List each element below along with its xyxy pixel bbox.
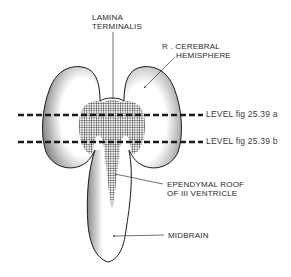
midbrain-leader-dot bbox=[113, 235, 115, 237]
label-hemisphere-line2: HEMISPHERE bbox=[162, 51, 231, 60]
label-lamina-line2: TERMINALIS bbox=[92, 22, 142, 31]
label-level-a: LEVEL fig 25.39 a bbox=[206, 110, 278, 119]
label-ependymal-roof: EPENDYMAL ROOF OF III VENTRICLE bbox=[167, 180, 244, 198]
label-midbrain: MIDBRAIN bbox=[168, 231, 209, 240]
label-lamina-terminalis: LAMINA TERMINALIS bbox=[92, 13, 142, 31]
label-hemisphere-line1: R . CEREBRAL bbox=[162, 42, 231, 51]
label-ependymal-line2: OF III VENTRICLE bbox=[167, 189, 244, 198]
label-lamina-line1: LAMINA bbox=[92, 13, 142, 22]
label-level-b: LEVEL fig 25.39 b bbox=[206, 137, 278, 146]
label-cerebral-hemisphere: R . CEREBRAL HEMISPHERE bbox=[162, 42, 231, 60]
label-ependymal-line1: EPENDYMAL ROOF bbox=[167, 180, 244, 189]
hemisphere-leader-dot bbox=[144, 86, 146, 88]
